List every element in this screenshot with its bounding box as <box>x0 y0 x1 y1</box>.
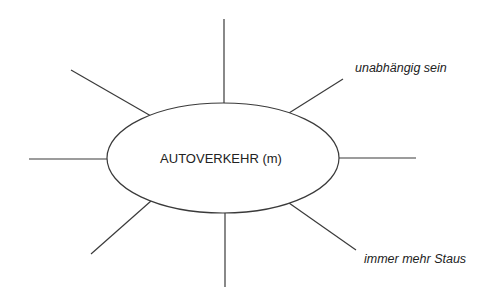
mind-map-diagram: AUTOVERKEHR (m) unabhängig sein immer me… <box>0 0 498 300</box>
branch-label-upper-right: unabhängig sein <box>355 61 447 75</box>
branch-label-lower-right: immer mehr Staus <box>364 252 466 266</box>
branch-line-lower-left <box>91 201 151 254</box>
branch-line-upper-right <box>289 79 343 113</box>
center-node-label: AUTOVERKEHR (m) <box>160 151 282 166</box>
branch-line-upper-left <box>71 70 151 116</box>
branch-line-lower-right <box>289 203 356 250</box>
